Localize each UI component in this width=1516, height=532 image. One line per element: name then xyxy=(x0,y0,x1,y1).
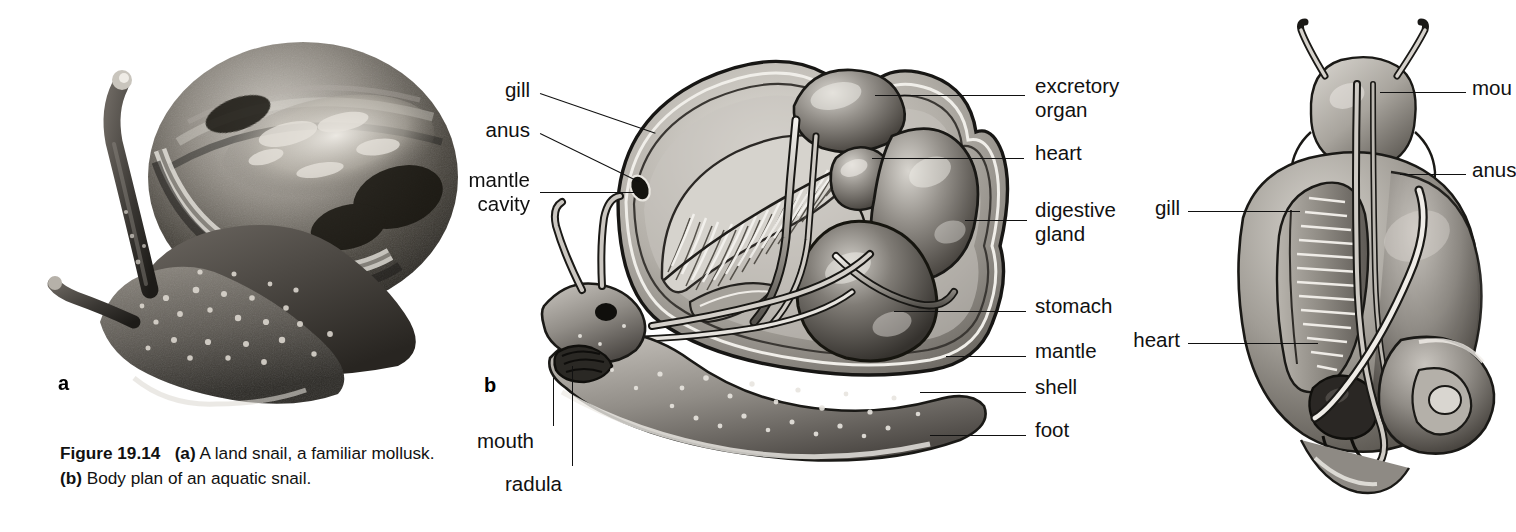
leader-gill-c xyxy=(1188,211,1300,212)
leader-foot xyxy=(930,435,1026,436)
label-excretory-organ-line1: excretory xyxy=(1035,74,1119,97)
label-heart-b: heart xyxy=(1035,141,1082,165)
label-mantle-cavity-b: mantlecavity xyxy=(420,168,530,216)
label-mantle-cavity-line2: cavity xyxy=(478,192,530,215)
leader-stomach xyxy=(894,311,1026,312)
land-snail-photograph xyxy=(38,22,468,412)
figure-caption: Figure 19.14 (a) A land snail, a familia… xyxy=(60,441,460,491)
leader-mouth-c xyxy=(1380,92,1466,93)
label-mantle-cavity-line1: mantle xyxy=(468,168,530,191)
label-excretory-organ: excretoryorgan xyxy=(1035,74,1119,122)
label-excretory-organ-line2: organ xyxy=(1035,98,1087,121)
label-mouth-b: mouth xyxy=(477,429,534,453)
label-radula-b: radula xyxy=(505,472,562,496)
label-anus-b: anus xyxy=(430,118,530,142)
label-gill-b: gill xyxy=(430,78,530,102)
leader-mantle xyxy=(946,356,1026,357)
label-heart-c: heart xyxy=(1092,328,1180,352)
leader-mantle-cavity-b xyxy=(540,192,638,193)
leader-digestive-gland xyxy=(965,220,1027,221)
aquatic-snail-body-plan xyxy=(540,40,1040,470)
leader-anus-c xyxy=(1400,174,1466,175)
label-digestive-gland-line1: digestive xyxy=(1035,198,1116,221)
label-mouth-c: mou xyxy=(1472,76,1512,100)
label-digestive-gland-line2: gland xyxy=(1035,222,1085,245)
caption-marker-b: (b) xyxy=(60,468,82,488)
leader-shell xyxy=(920,392,1026,393)
label-digestive-gland: digestivegland xyxy=(1035,198,1116,246)
label-stomach: stomach xyxy=(1035,294,1112,318)
panel-marker-a: a xyxy=(58,372,69,395)
leader-heart-b xyxy=(872,158,1024,159)
caption-text-a: A land snail, a familiar mollusk. xyxy=(196,443,435,463)
label-mantle: mantle xyxy=(1035,339,1097,363)
label-shell: shell xyxy=(1035,375,1077,399)
caption-text-b: Body plan of an aquatic snail. xyxy=(82,468,311,488)
label-anus-c: anus xyxy=(1472,158,1516,182)
leader-excretory-organ xyxy=(875,95,1025,96)
leader-heart-c xyxy=(1188,343,1318,344)
aquatic-snail-dorsal-view xyxy=(1205,22,1516,502)
leader-mouth-b xyxy=(553,378,554,426)
figure-plate: a xyxy=(0,0,1516,532)
label-foot: foot xyxy=(1035,418,1069,442)
panel-marker-b: b xyxy=(484,374,496,397)
leader-radula-b xyxy=(572,366,573,466)
figure-number: Figure 19.14 xyxy=(60,443,160,463)
caption-marker-a: (a) xyxy=(175,443,196,463)
dorsal-coiled-shell xyxy=(1379,337,1494,454)
eye-spot xyxy=(595,303,617,321)
label-gill-c: gill xyxy=(1110,196,1180,220)
